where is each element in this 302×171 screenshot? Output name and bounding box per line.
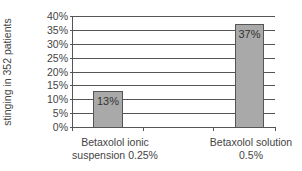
x-axis-tick [213, 127, 214, 131]
y-tick-label: 15% [40, 79, 68, 91]
x-axis-tick [275, 127, 276, 131]
y-tick-label: 40% [40, 10, 68, 22]
y-tick-label: 20% [40, 66, 68, 78]
x-category-label-2-line-2: 0.5% [196, 149, 302, 162]
bar-value-label: 37% [236, 28, 263, 40]
bar-betaxolol-solution: 37% [235, 24, 264, 128]
y-tick-label: 25% [40, 52, 68, 64]
y-tick-label: 30% [40, 38, 68, 50]
x-axis-tick [72, 127, 73, 131]
y-axis-line [72, 16, 73, 128]
bar-betaxolol-ionic-suspension: 13% [93, 91, 123, 128]
x-category-label-2: Betaxolol solution 0.5% [196, 136, 302, 162]
x-category-label-2-line-1: Betaxolol solution [196, 136, 302, 149]
y-tick-label: 5% [40, 107, 68, 119]
bar-value-label: 13% [94, 95, 122, 107]
y-tick-label: 35% [40, 24, 68, 36]
x-category-label-1-line-1: Betaxolol ionic [60, 136, 170, 149]
y-axis-title-line-2: stinging in 352 patients [1, 0, 14, 147]
y-tick-label: 10% [40, 93, 68, 105]
x-category-label-1-line-2: suspension 0.25% [60, 149, 170, 162]
x-axis-tick [143, 127, 144, 131]
y-tick-label: 0% [40, 121, 68, 133]
x-category-label-1: Betaxolol ionic suspension 0.25% [60, 136, 170, 162]
gridline [70, 16, 275, 17]
